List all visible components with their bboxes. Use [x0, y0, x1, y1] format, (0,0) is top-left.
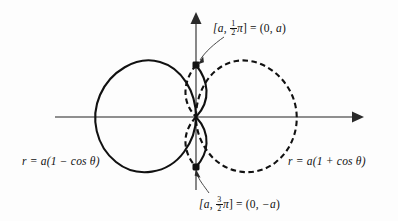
bottom-fraction: 32	[216, 196, 222, 213]
cardioid-left-solid-inner-lobes	[196, 65, 207, 167]
top-paren-close: )	[282, 22, 286, 34]
label-top-point: [a, 12π] = (0, a)	[213, 20, 286, 37]
x-axis-arrowhead-icon	[352, 112, 364, 123]
leader-arrowhead-top-icon	[198, 57, 204, 65]
label-bottom-point: [a, 32π] = (0, −a)	[199, 196, 280, 213]
top-equals: = (0,	[247, 22, 276, 34]
leader-line-top	[200, 37, 224, 60]
cardioid-diagram: [a, 12π] = (0, a) [a, 32π] = (0, −a) r =…	[0, 0, 398, 221]
point-marker-top	[193, 62, 200, 69]
label-left-equation: r = a(1 − cos θ)	[22, 155, 100, 167]
top-fraction: 12	[230, 20, 236, 37]
label-right-equation: r = a(1 + cos θ)	[288, 155, 366, 167]
cardioid-right-dashed-inner-lobes	[185, 65, 196, 167]
bottom-comma: ,	[210, 198, 216, 210]
bottom-value: −a	[262, 198, 276, 210]
top-comma: ,	[224, 22, 230, 34]
point-marker-bottom	[193, 164, 200, 171]
bottom-equals: = (0,	[233, 198, 262, 210]
diagram-canvas	[0, 0, 398, 221]
bottom-paren-close: )	[276, 198, 280, 210]
y-axis-arrowhead-icon	[191, 12, 202, 24]
bottom-fraction-denominator: 2	[216, 205, 222, 213]
top-fraction-denominator: 2	[230, 29, 236, 37]
solid-upper-inner-arc	[196, 65, 207, 117]
